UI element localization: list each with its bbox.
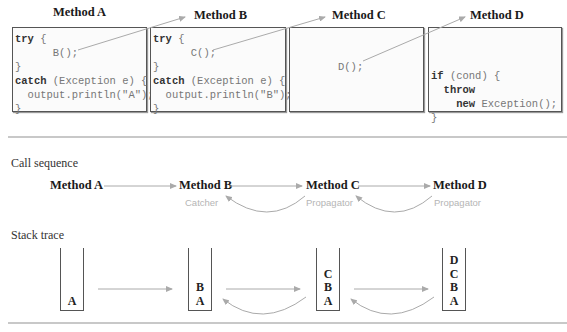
method-a-title: Method A (53, 5, 106, 20)
call-node-c: Method C (306, 178, 360, 193)
call-sequence-label: Call sequence (11, 156, 78, 171)
stack-2-frames: BA (189, 281, 211, 308)
role-c: Propagator (306, 197, 353, 208)
stack-frame: B (189, 281, 211, 295)
stack-frame: A (61, 295, 83, 309)
stack-frame: D (443, 254, 465, 268)
stack-return-4-3 (351, 297, 434, 314)
method-b-code-box: try { C(); } catch (Exception e) { outpu… (150, 27, 286, 112)
stack-frame: A (189, 295, 211, 309)
divider-bottom (8, 322, 567, 324)
stack-2: BA (188, 248, 212, 311)
stack-frame: A (317, 295, 339, 309)
propagate-arrow-c-b (226, 196, 305, 212)
method-b-title: Method B (194, 8, 247, 23)
stack-1-frames: A (61, 295, 83, 309)
stack-4-frames: DCBA (443, 254, 465, 308)
method-a-code: try { B(); } catch (Exception e) { outpu… (15, 32, 154, 116)
method-d-code: if (cond) { throw new Exception(); } (431, 69, 557, 125)
stack-frame: C (443, 268, 465, 282)
method-b-code: try { C(); } catch (Exception e) { outpu… (153, 32, 292, 116)
method-d-code-box: if (cond) { throw new Exception(); } (428, 27, 562, 112)
stack-4: DCBA (442, 248, 466, 311)
propagate-arrow-d-c (356, 196, 432, 212)
method-c-code: D(); (338, 60, 363, 74)
stack-3: CBA (316, 248, 340, 311)
stack-3-frames: CBA (317, 268, 339, 309)
role-b: Catcher (185, 197, 218, 208)
divider-top (8, 136, 567, 138)
method-a-code-box: try { B(); } catch (Exception e) { outpu… (12, 27, 147, 112)
call-node-a: Method A (50, 178, 103, 193)
stack-frame: C (317, 268, 339, 282)
method-c-title: Method C (332, 8, 386, 23)
call-node-d: Method D (433, 178, 487, 193)
stack-trace-label: Stack trace (11, 228, 64, 243)
stack-1: A (60, 248, 84, 311)
method-c-code-box: D(); (289, 27, 424, 112)
stack-frame: B (443, 281, 465, 295)
stack-return-3-2 (223, 297, 306, 314)
stack-frame: A (443, 295, 465, 309)
stack-frame: B (317, 281, 339, 295)
call-node-b: Method B (179, 178, 232, 193)
role-d: Propagator (434, 197, 481, 208)
method-d-title: Method D (470, 8, 524, 23)
